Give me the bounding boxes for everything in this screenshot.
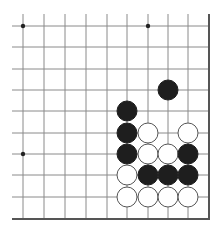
white-stone [117, 165, 137, 185]
white-stone [138, 123, 158, 143]
white-stone [158, 187, 178, 207]
star-point-icon [21, 24, 25, 28]
black-stone [158, 165, 178, 185]
white-stone [138, 187, 158, 207]
white-stone [138, 144, 158, 164]
black-stone [117, 101, 137, 121]
black-stone [117, 144, 137, 164]
stones [117, 80, 198, 207]
star-point-icon [146, 24, 150, 28]
black-stone [138, 165, 158, 185]
black-stone [178, 144, 198, 164]
black-stone [158, 80, 178, 100]
go-board-canvas[interactable] [0, 0, 214, 234]
black-stone [117, 123, 137, 143]
star-point-icon [21, 152, 25, 156]
grid-lines [12, 14, 210, 220]
white-stone [178, 187, 198, 207]
white-stone [117, 187, 137, 207]
go-board[interactable] [0, 0, 214, 234]
white-stone [178, 123, 198, 143]
black-stone [178, 165, 198, 185]
white-stone [158, 144, 178, 164]
